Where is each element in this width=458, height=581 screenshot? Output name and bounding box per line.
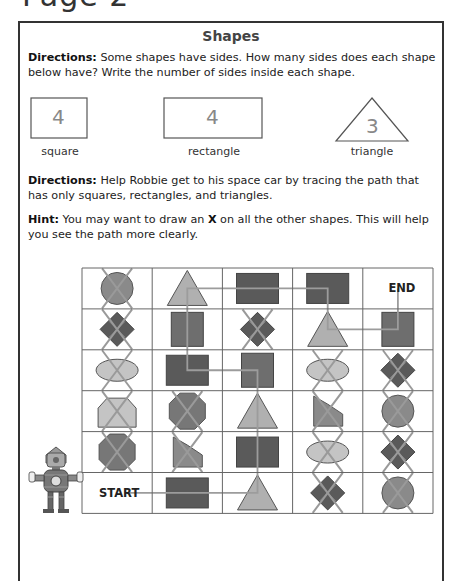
maze-cell-diamond-x[interactable] bbox=[100, 309, 134, 349]
maze-cell-ellipse-x[interactable] bbox=[307, 432, 349, 472]
maze-cell-octagon-x[interactable] bbox=[169, 391, 205, 431]
maze-cell-diamond-x[interactable] bbox=[381, 432, 415, 472]
maze-cell-octagon-x[interactable] bbox=[99, 432, 135, 472]
maze-cell-diamond-x[interactable] bbox=[311, 473, 345, 513]
maze-cell-trapezoid-x[interactable] bbox=[172, 432, 202, 472]
maze-cell-pentagon-x[interactable] bbox=[98, 391, 136, 431]
robot-icon bbox=[28, 445, 84, 517]
maze-cell-circle-x[interactable] bbox=[382, 391, 414, 431]
end-label: END bbox=[388, 281, 415, 295]
maze-cell-ellipse-x[interactable] bbox=[96, 350, 138, 390]
start-label: START bbox=[99, 486, 139, 500]
maze-cell-ellipse-x[interactable] bbox=[307, 350, 349, 390]
maze-cell-diamond-x[interactable] bbox=[381, 350, 415, 390]
maze-cell-trapezoid-x[interactable] bbox=[313, 391, 343, 431]
maze-cell-circle-x[interactable] bbox=[101, 268, 133, 308]
maze-cell-diamond-x[interactable] bbox=[241, 309, 275, 349]
maze-cell-circle-x[interactable] bbox=[382, 473, 414, 513]
